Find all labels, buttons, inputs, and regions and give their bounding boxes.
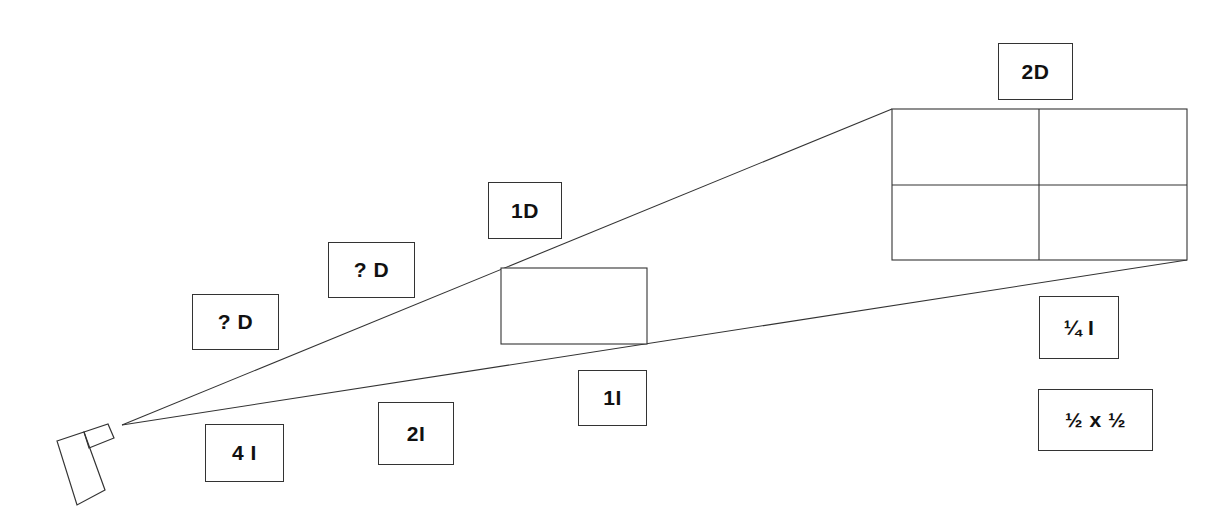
- intensity-2i-label: 2I: [378, 402, 454, 465]
- flashlight-icon: [57, 424, 114, 505]
- intensity-quarter-label: ¼ I: [1039, 296, 1119, 359]
- area-factor-label: ½ x ½: [1038, 389, 1153, 451]
- surface-at-1d: [501, 268, 647, 344]
- distance-2d-label: 2D: [998, 43, 1073, 100]
- surface-at-2d: [892, 109, 1187, 260]
- intensity-4i-label: 4 I: [205, 424, 284, 482]
- distance-unknown-label-1: ? D: [192, 294, 279, 350]
- distance-1d-label: 1D: [488, 182, 562, 239]
- intensity-1i-label: 1I: [578, 370, 647, 426]
- distance-unknown-label-2: ? D: [328, 242, 415, 298]
